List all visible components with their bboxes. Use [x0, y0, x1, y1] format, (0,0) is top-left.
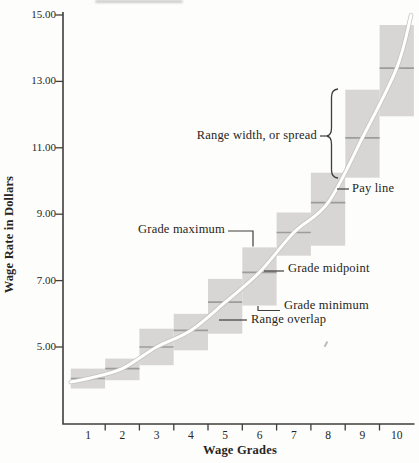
x-tick-label-grade-9: 9	[350, 429, 374, 441]
annotation-range-width: Range width, or spread	[197, 129, 317, 142]
scan-artifact-top-smudge	[95, 0, 183, 3]
x-tick-label-grade-6: 6	[248, 429, 272, 441]
annotation-pay-line: Pay line	[352, 182, 394, 195]
y-tick-label-9.00: 9.00	[14, 208, 56, 220]
x-tick-label-grade-1: 1	[76, 429, 100, 441]
x-axis-title: Wage Grades	[63, 444, 417, 457]
y-tick-label-13.00: 13.00	[14, 76, 56, 88]
x-tick-label-grade-2: 2	[110, 429, 134, 441]
annotation-grade-minimum: Grade minimum	[284, 299, 369, 312]
x-tick-label-grade-8: 8	[316, 429, 340, 441]
range-width-brace	[327, 89, 339, 178]
x-tick-label-grade-10: 10	[385, 429, 409, 441]
y-tick-label-15.00: 15.00	[14, 9, 56, 21]
y-tick-label-7.00: 7.00	[14, 275, 56, 287]
wage-structure-figure: Wage Rate in Dollars Wage Grades Range w…	[0, 0, 419, 463]
y-tick-label-11.00: 11.00	[14, 142, 56, 154]
grade-minimum-connector-line	[258, 306, 280, 311]
grade-maximum-connector-line	[228, 231, 253, 247]
annotation-range-overlap: Range overlap	[251, 313, 326, 326]
grade-5-range-box	[208, 279, 242, 334]
annotation-grade-midpoint: Grade midpoint	[288, 262, 370, 275]
annotation-grade-maximum: Grade maximum	[138, 223, 225, 236]
y-tick-label-5.00: 5.00	[14, 341, 56, 353]
x-tick-label-grade-7: 7	[282, 429, 306, 441]
x-tick-label-grade-4: 4	[179, 429, 203, 441]
x-tick-label-grade-5: 5	[213, 429, 237, 441]
x-tick-label-grade-3: 3	[145, 429, 169, 441]
